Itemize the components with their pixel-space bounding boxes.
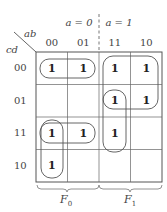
col-header-00: 00 [36, 37, 68, 48]
cell-00-00: 1 [36, 52, 68, 85]
cell-00-01: 1 [68, 52, 100, 85]
cell-10-00: 1 [36, 150, 68, 183]
row-header-10: 10 [14, 160, 27, 171]
row-header-01: 01 [14, 95, 27, 106]
cell-01-00 [36, 85, 68, 118]
cell-00-10: 1 [131, 52, 163, 85]
ab-label: ab [24, 28, 36, 39]
a1-label: a = 1 [104, 17, 134, 28]
f0-label: F0 [60, 193, 72, 208]
a0-label: a = 0 [64, 17, 94, 28]
cell-01-11: 1 [99, 85, 131, 118]
cell-11-00: 1 [36, 117, 68, 150]
col-header-01: 01 [68, 37, 100, 48]
row-header-00: 00 [14, 62, 27, 73]
row-header-11: 11 [14, 127, 27, 138]
f1-label: F1 [124, 193, 136, 208]
cell-00-11: 1 [99, 52, 131, 85]
cell-01-10: 1 [131, 85, 163, 118]
col-header-10: 10 [131, 37, 163, 48]
cell-01-01 [68, 85, 100, 118]
cell-10-10 [131, 150, 163, 183]
col-header-11: 11 [99, 37, 131, 48]
cell-11-01: 1 [68, 117, 100, 150]
cell-11-11: 1 [99, 117, 131, 150]
cd-label: cd [6, 44, 18, 55]
cell-11-10 [131, 117, 163, 150]
cell-10-11 [99, 150, 131, 183]
cell-10-01 [68, 150, 100, 183]
